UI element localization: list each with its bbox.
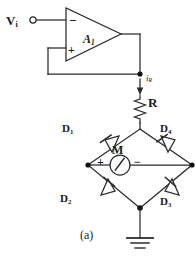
inverting-input-label: −	[69, 14, 76, 27]
bridge-left-node-dot	[85, 162, 90, 167]
input-source-label: Vi	[6, 14, 18, 27]
meter-negative-terminal-label: −	[134, 156, 141, 168]
circuit-diagram-figure: Vi − + A1 iR R D1 D4 D2 D3 M + − (a)	[0, 0, 195, 262]
diode-2-label: D2	[60, 193, 71, 204]
noninverting-input-label: +	[68, 44, 75, 56]
resistor-zigzag	[135, 95, 146, 123]
resistor-label: R	[148, 96, 157, 109]
meter-label: M	[112, 144, 123, 156]
diode-3-symbol	[165, 178, 179, 196]
resistor-current-label: iR	[146, 74, 152, 83]
opamp-label: A1	[83, 33, 95, 45]
current-arrow-head	[137, 88, 144, 96]
output-node-dot	[137, 71, 142, 76]
diode-1-label: D1	[62, 123, 73, 134]
diode-4-label: D4	[160, 123, 171, 134]
meter-positive-terminal-label: +	[97, 156, 104, 168]
figure-caption: (a)	[80, 229, 93, 241]
diode-2-symbol	[101, 178, 115, 196]
bridge-right-node-dot	[189, 162, 194, 167]
diode-3-label: D3	[160, 196, 171, 207]
input-terminal-circle[interactable]	[30, 17, 36, 23]
